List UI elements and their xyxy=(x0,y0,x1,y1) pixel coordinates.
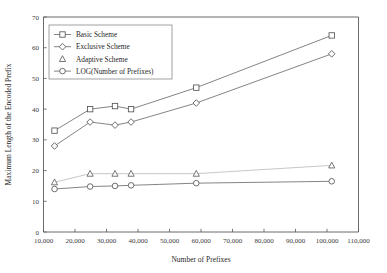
y-tick-label: 0 xyxy=(36,229,40,237)
marker-triangle xyxy=(329,162,335,168)
x-tick-label: 30,000 xyxy=(97,237,117,245)
marker-square xyxy=(87,106,92,111)
line-chart: 010203040506070 10,00020,00030,00040,000… xyxy=(0,0,387,273)
x-tick-label: 20,000 xyxy=(65,237,85,245)
marker-square xyxy=(60,32,65,37)
marker-diamond xyxy=(87,119,94,126)
y-tick-label: 60 xyxy=(32,44,40,52)
marker-circle xyxy=(52,186,58,192)
marker-diamond xyxy=(193,100,200,107)
y-tick-label: 10 xyxy=(32,198,40,206)
y-tick-label: 20 xyxy=(32,167,40,175)
marker-circle xyxy=(112,183,118,189)
legend-label: Exclusive Scheme xyxy=(76,42,130,51)
marker-diamond xyxy=(112,122,119,129)
y-axis-ticks: 010203040506070 xyxy=(32,14,47,237)
y-tick-label: 50 xyxy=(32,75,40,83)
series-path xyxy=(55,165,332,182)
marker-square xyxy=(128,106,133,111)
x-tick-label: 40,000 xyxy=(128,237,148,245)
marker-square xyxy=(329,33,334,38)
marker-circle xyxy=(87,184,93,190)
legend-label: Basic Scheme xyxy=(76,30,117,39)
legend-label: Adaptive Scheme xyxy=(76,55,128,64)
x-tick-label: 100,000 xyxy=(316,237,339,245)
y-tick-label: 30 xyxy=(32,136,40,144)
marker-circle xyxy=(128,183,134,189)
chart-legend: Basic SchemeExclusive SchemeAdaptive Sch… xyxy=(49,25,172,79)
legend-label: LOG(Number of Prefixes) xyxy=(76,67,154,76)
marker-circle xyxy=(193,180,199,186)
chart-container: 010203040506070 10,00020,00030,00040,000… xyxy=(0,0,387,273)
x-tick-label: 60,000 xyxy=(191,237,211,245)
x-tick-label: 70,000 xyxy=(223,237,243,245)
marker-diamond xyxy=(128,119,135,126)
x-tick-label: 50,000 xyxy=(160,237,180,245)
marker-diamond xyxy=(51,143,58,150)
x-tick-label: 110,000 xyxy=(347,237,370,245)
x-tick-label: 90,000 xyxy=(286,237,306,245)
marker-circle xyxy=(329,179,335,185)
x-tick-label: 80,000 xyxy=(254,237,274,245)
y-tick-label: 70 xyxy=(32,14,40,22)
marker-circle xyxy=(60,68,66,74)
x-tick-label: 10,000 xyxy=(34,237,54,245)
marker-square xyxy=(112,103,117,108)
series-log-number-of-prefixes xyxy=(52,179,335,192)
marker-square xyxy=(194,85,199,90)
y-axis-label: Maximum Length of the Encoded Prefix xyxy=(4,63,13,185)
marker-square xyxy=(52,128,57,133)
marker-diamond xyxy=(328,51,335,58)
y-tick-label: 40 xyxy=(32,106,40,114)
x-axis-label: Number of Prefixes xyxy=(171,255,230,264)
x-axis-ticks: 10,00020,00030,00040,00050,00060,00070,0… xyxy=(34,229,370,245)
